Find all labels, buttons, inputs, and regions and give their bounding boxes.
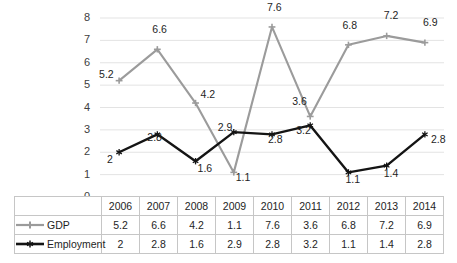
table-cell: 3.6 [292, 216, 330, 235]
table-cell: 2.8 [406, 235, 444, 254]
y-axis-tick-label: 8 [74, 12, 90, 23]
table-header-cell: 2010 [254, 197, 292, 216]
data-label: 4.2 [201, 89, 216, 100]
table-cell: 7.6 [254, 216, 292, 235]
chart-container: 012345678 5.26.64.21.17.63.66.87.26.922.… [0, 0, 457, 263]
table-header-cell: 2012 [330, 197, 368, 216]
legend-marker-employment-icon [15, 238, 45, 250]
table-header-cell: 2014 [406, 197, 444, 216]
data-point-marker [269, 24, 276, 30]
y-axis-tick-label: 1 [74, 169, 90, 180]
data-label: 3.6 [292, 96, 307, 107]
data-label: 6.9 [423, 17, 438, 28]
table-header-cell: 2013 [368, 197, 406, 216]
data-label: 3.2 [296, 125, 311, 136]
data-label: 7.6 [267, 2, 282, 13]
table-header-cell: 2011 [292, 197, 330, 216]
y-axis-tick-label: 5 [74, 79, 90, 90]
data-label: 2.9 [218, 122, 233, 133]
table-header-cell: 2008 [178, 197, 216, 216]
table-cell: 6.9 [406, 216, 444, 235]
table-cell: 5.2 [102, 216, 140, 235]
table-cell: 1.6 [178, 235, 216, 254]
data-point-marker [383, 33, 390, 39]
data-label: 7.2 [384, 10, 399, 21]
data-label: 1.4 [384, 168, 399, 179]
data-label: 2.8 [431, 134, 446, 145]
series-line-gdp [119, 27, 425, 172]
table-header-cell: 2007 [140, 197, 178, 216]
legend-label: GDP [47, 219, 70, 231]
table-cell: 3.2 [292, 235, 330, 254]
y-axis-tick-label: 6 [74, 57, 90, 68]
data-label: 5.2 [99, 69, 114, 80]
data-table: 200620072008200920102011201220132014GDP5… [14, 196, 444, 254]
y-axis-tick-label: 2 [74, 146, 90, 157]
legend-marker-gdp-icon [15, 219, 45, 231]
table-corner-cell [15, 197, 102, 216]
table-row: GDP5.26.64.21.17.63.66.87.26.9 [15, 216, 444, 235]
plot-area: 012345678 5.26.64.21.17.63.66.87.26.922.… [0, 0, 457, 200]
data-label: 6.6 [152, 24, 167, 35]
table-cell: 2.8 [254, 235, 292, 254]
table-cell: 6.6 [140, 216, 178, 235]
legend-label: Employment [47, 238, 105, 250]
table-cell: 7.2 [368, 216, 406, 235]
data-label: 6.8 [342, 20, 357, 31]
table-cell: 4.2 [178, 216, 216, 235]
chart-data-table: 200620072008200920102011201220132014GDP5… [14, 196, 444, 254]
data-label: 1.6 [198, 163, 213, 174]
table-cell: 1.1 [330, 235, 368, 254]
table-row: Employment22.81.62.92.83.21.11.42.8 [15, 235, 444, 254]
table-cell: 1.1 [216, 216, 254, 235]
legend-entry-employment[interactable]: Employment [15, 235, 102, 254]
table-cell: 2.9 [216, 235, 254, 254]
data-label: 2.8 [268, 134, 283, 145]
data-label: 2 [107, 154, 113, 165]
table-header-cell: 2006 [102, 197, 140, 216]
table-cell: 2 [102, 235, 140, 254]
table-header-cell: 2009 [216, 197, 254, 216]
y-axis-tick-label: 4 [74, 102, 90, 113]
y-axis-tick-label: 3 [74, 124, 90, 135]
table-cell: 2.8 [140, 235, 178, 254]
table-cell: 1.4 [368, 235, 406, 254]
table-cell: 6.8 [330, 216, 368, 235]
table-header-row: 200620072008200920102011201220132014 [15, 197, 444, 216]
legend-entry-gdp[interactable]: GDP [15, 216, 102, 235]
data-label: 1.1 [236, 172, 251, 183]
data-label: 1.1 [345, 174, 360, 185]
data-label: 2.8 [147, 132, 162, 143]
y-axis-tick-label: 7 [74, 34, 90, 45]
